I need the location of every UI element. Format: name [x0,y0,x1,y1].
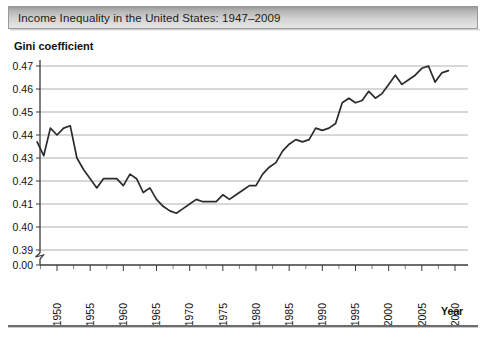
x-tick-label: 1990 [316,303,328,327]
figure-container: Income Inequality in the United States: … [0,0,494,337]
y-axis-break-icon [36,253,44,259]
x-axis-tick-labels: 1950195519601965197019751980198519901995… [51,303,461,327]
x-tick-label: 1965 [150,303,162,327]
y-tick-label: 0.39 [13,244,34,256]
x-axis-ticks [40,265,455,271]
y-axis-tick-labels: 0.000.390.400.410.420.430.440.450.460.47 [13,60,34,271]
gini-coefficient-series [37,66,448,213]
x-tick-label: 1970 [183,303,195,327]
y-tick-label: 0.42 [13,175,34,187]
y-tick-label: 0.47 [13,60,34,72]
x-tick-label: 1950 [51,303,63,327]
y-tick-label: 0.40 [13,221,34,233]
line-chart-plot: 0.000.390.400.410.420.430.440.450.460.47… [0,0,494,337]
x-tick-label: 1980 [250,303,262,327]
x-tick-label: 1955 [84,303,96,327]
x-tick-label: 1960 [117,303,129,327]
y-tick-label: 0.46 [13,83,34,95]
axis-lines [40,60,468,265]
gridlines [40,66,468,250]
x-tick-label: 1995 [349,303,361,327]
y-tick-label: 0.43 [13,152,34,164]
y-tick-label: 0.45 [13,106,34,118]
y-tick-label: 0.44 [13,129,34,141]
x-tick-label: 1975 [217,303,229,327]
x-tick-label: 2010 [449,303,461,327]
x-tick-label: 1985 [283,303,295,327]
y-tick-label: 0.00 [13,259,34,271]
footer-divider [8,325,478,328]
y-tick-label: 0.41 [13,198,34,210]
x-tick-label: 2000 [382,303,394,327]
x-tick-label: 2005 [416,303,428,327]
